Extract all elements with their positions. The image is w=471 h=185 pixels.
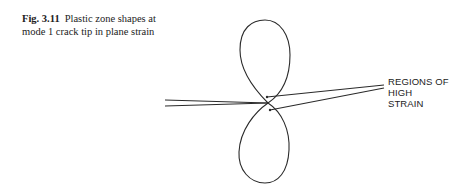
high-strain-annotation: REGIONS OF HIGH STRAIN <box>388 76 471 109</box>
annotation-line-1: REGIONS OF HIGH <box>388 76 471 98</box>
leader-point-lower <box>269 109 271 111</box>
lower-plastic-lobe <box>239 103 289 183</box>
upper-plastic-lobe <box>240 20 290 103</box>
crack-upper-face <box>165 100 268 103</box>
crack-lower-face <box>165 103 268 106</box>
leader-point-upper <box>266 96 268 98</box>
annotation-line-2: STRAIN <box>388 98 471 109</box>
